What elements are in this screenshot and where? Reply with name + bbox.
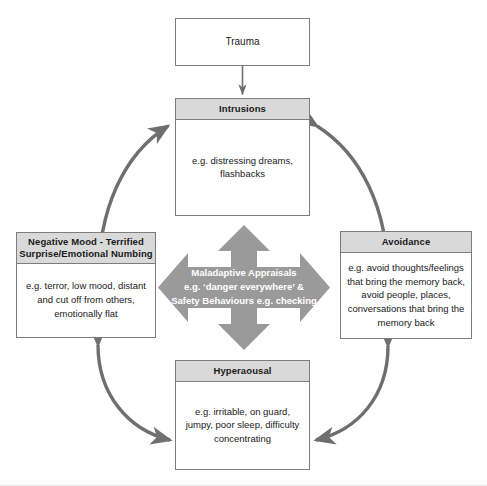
central-cross-arrow (158, 225, 330, 350)
node-negative-mood-body: e.g. terror, low mood, distant and cut o… (17, 264, 155, 336)
diagram-canvas: Maladaptive Appraisals e.g. ‘danger ever… (0, 0, 487, 486)
node-hyperarousal: Hyperaousal e.g. irritable, on guard, ju… (175, 360, 310, 470)
node-avoidance: Avoidance e.g. avoid thoughts/feelings t… (340, 231, 472, 339)
connector-avoidance-hyperarousal (316, 346, 388, 440)
node-negative-mood-header-line-1: Negative Mood - Terrified (19, 236, 153, 248)
node-trauma: Trauma (175, 18, 310, 66)
node-negative-mood-header-line-2: Surprise/Emotional Numbing (19, 248, 153, 260)
node-intrusions-header: Intrusions (176, 99, 309, 120)
node-intrusions: Intrusions e.g. distressing dreams, flas… (175, 98, 310, 216)
node-intrusions-body: e.g. distressing dreams, flashbacks (176, 120, 309, 215)
node-negative-mood-header: Negative Mood - Terrified Surprise/Emoti… (17, 233, 155, 264)
node-hyperarousal-body: e.g. irritable, on guard, jumpy, poor sl… (176, 382, 309, 469)
node-trauma-label: Trauma (176, 19, 309, 65)
node-avoidance-body: e.g. avoid thoughts/feelings that bring … (341, 253, 471, 338)
cross-arrow-shape (158, 225, 330, 350)
node-hyperarousal-header: Hyperaousal (176, 361, 309, 382)
node-negative-mood: Negative Mood - Terrified Surprise/Emoti… (16, 232, 156, 338)
connector-negative-mood-hyperarousal (98, 345, 170, 440)
node-avoidance-header: Avoidance (341, 232, 471, 253)
